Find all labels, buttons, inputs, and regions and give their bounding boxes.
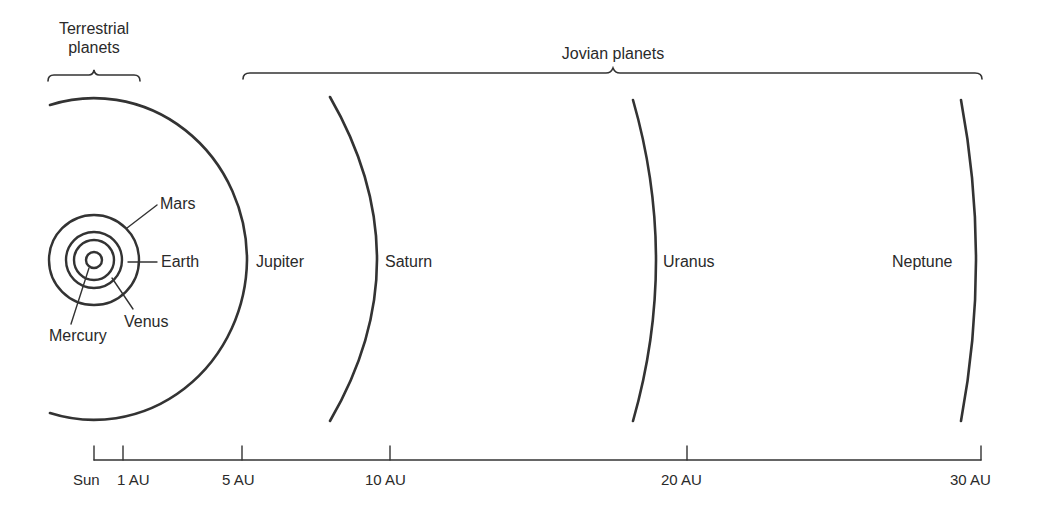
mercury-label: Mercury [49, 327, 107, 345]
neptune-label: Neptune [892, 253, 953, 271]
terrestrial-title-line1: Terrestrial [44, 19, 144, 38]
venus-label: Venus [124, 313, 168, 331]
orbit-drawing [0, 0, 1045, 516]
venus-orbit [74, 240, 114, 280]
uranus-orbit [633, 100, 656, 421]
venus-leader-line [112, 278, 133, 309]
mercury-leader-line [71, 268, 89, 324]
mars-orbit [49, 215, 139, 305]
axis-label-10au: 10 AU [365, 471, 406, 489]
mars-label: Mars [160, 195, 196, 213]
mars-leader-line [127, 205, 157, 228]
uranus-label: Uranus [663, 253, 715, 271]
jovian-title: Jovian planets [533, 44, 693, 63]
jupiter-orbit [50, 98, 247, 420]
axis-label-30au: 30 AU [950, 471, 991, 489]
saturn-orbit [330, 97, 377, 421]
neptune-orbit [961, 100, 976, 421]
axis-label-sun: Sun [73, 471, 100, 489]
terrestrial-title: Terrestrial planets [44, 19, 144, 57]
jovian-brace [243, 68, 982, 79]
terrestrial-title-line2: planets [44, 38, 144, 57]
mercury-orbit [86, 252, 102, 268]
axis-label-5au: 5 AU [222, 471, 255, 489]
axis-label-1au: 1 AU [117, 471, 150, 489]
jupiter-label: Jupiter [256, 253, 304, 271]
terrestrial-brace [48, 70, 140, 81]
axis-label-20au: 20 AU [661, 471, 702, 489]
solar-system-diagram: Terrestrial planets Jovian planets Mars … [0, 0, 1045, 516]
earth-label: Earth [161, 253, 199, 271]
saturn-label: Saturn [385, 253, 432, 271]
